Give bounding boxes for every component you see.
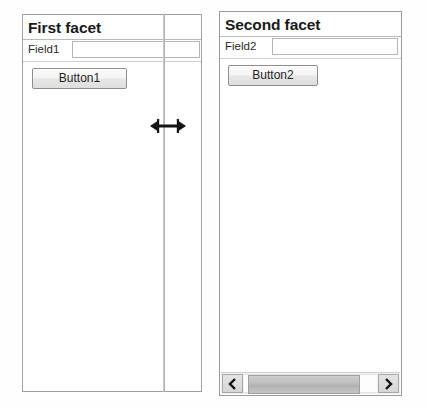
scrollbar-thumb[interactable]	[248, 375, 360, 394]
field-row-second: Field2	[220, 37, 401, 59]
facet-body-first	[23, 62, 201, 391]
app-canvas: First facet Field1 Button1 Second facet …	[0, 0, 427, 409]
field1-label: Field1	[28, 43, 59, 55]
scroll-left-button[interactable]	[222, 374, 243, 393]
chevron-right-icon	[384, 378, 393, 390]
horizontal-scrollbar[interactable]	[221, 372, 400, 394]
scroll-right-button[interactable]	[378, 374, 399, 393]
facet-title-first: First facet	[23, 15, 201, 40]
chevron-left-icon	[228, 378, 237, 390]
scrollbar-track[interactable]	[244, 374, 377, 393]
splitter-divider-line[interactable]	[163, 14, 164, 392]
facet-inner-divider	[164, 15, 165, 391]
facet-panel-second: Second facet Field2 Button2	[219, 11, 402, 396]
field-row-first: Field1	[23, 40, 201, 62]
field2-label: Field2	[225, 40, 256, 52]
facet-title-second: Second facet	[220, 12, 401, 37]
facet-body-second	[220, 59, 401, 395]
facet-panel-first: First facet Field1 Button1	[22, 14, 202, 392]
field1-input[interactable]	[72, 41, 200, 58]
field2-input[interactable]	[272, 38, 398, 55]
